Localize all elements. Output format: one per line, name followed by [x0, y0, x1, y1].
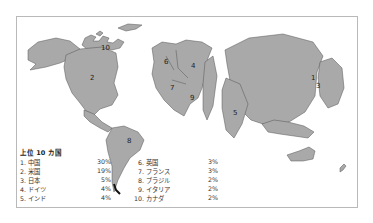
region-australia	[287, 147, 315, 161]
legend-item: 10. カナダ 2%	[134, 194, 164, 203]
label-1: 1	[311, 74, 315, 82]
label-4: 4	[191, 62, 196, 70]
cartogram-map: 1 2 3 4 5 6 7 8 9 10	[0, 0, 373, 223]
legend-title: 上位 10 カ国	[20, 147, 62, 157]
legend-item: 8. ブラジル 2%	[138, 176, 170, 185]
label-7: 7	[170, 84, 174, 92]
legend-item: 6. 英国 3%	[138, 158, 158, 167]
region-southeast-asia	[262, 120, 314, 138]
legend-item: 4. ドイツ 4%	[20, 185, 46, 194]
region-new-zealand	[340, 164, 346, 172]
legend-item: 1. 中国 30%	[20, 158, 40, 167]
legend-item: 5. インド 4%	[20, 194, 46, 203]
label-3: 3	[316, 82, 320, 90]
label-5: 5	[233, 109, 237, 117]
label-9: 9	[190, 94, 194, 102]
region-central-america	[84, 110, 112, 132]
label-8: 8	[127, 137, 131, 145]
legend-item: 2. 米国 19%	[20, 167, 40, 176]
legend-item: 7. フランス 3%	[138, 167, 170, 176]
region-canada	[82, 24, 142, 51]
region-japan	[318, 58, 344, 108]
legend-item: 9. イタリア 2%	[138, 185, 170, 194]
label-10: 10	[101, 44, 110, 52]
region-middle-east	[203, 56, 217, 120]
legend-item: 3. 日本 5%	[20, 176, 40, 185]
label-2: 2	[90, 74, 94, 82]
label-6: 6	[164, 58, 169, 66]
